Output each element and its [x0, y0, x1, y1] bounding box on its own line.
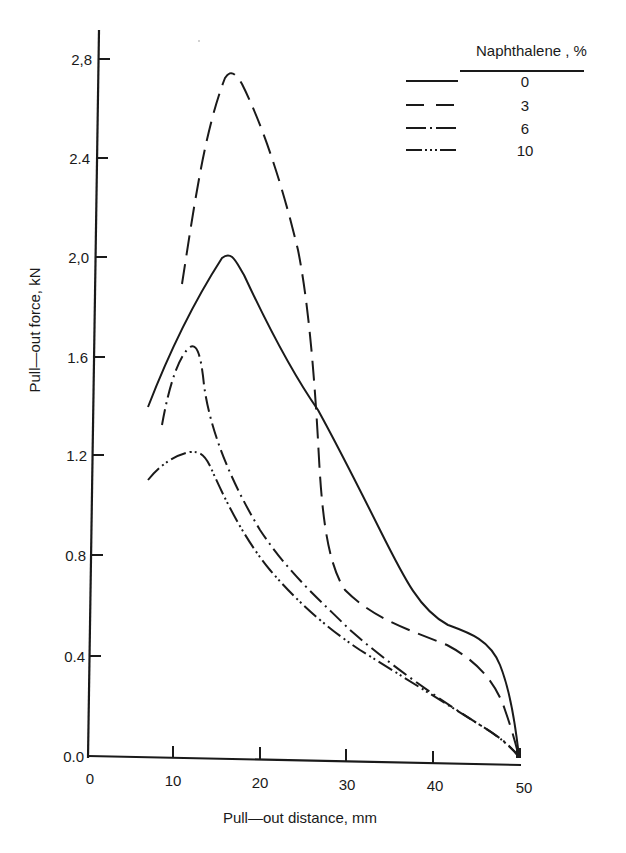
curve-6-percent — [162, 346, 519, 757]
legend-label: 0 — [521, 73, 529, 90]
x-axis-title: Pull—out distance, mm — [223, 809, 377, 826]
curve-3-percent — [182, 73, 519, 757]
legend: Naphthalene , % 0 3 6 10 — [406, 42, 587, 159]
legend-label: 3 — [521, 97, 529, 114]
legend-label: 6 — [521, 120, 529, 137]
x-tick-label: 20 — [252, 774, 269, 791]
y-tick-label: 0.0 — [63, 748, 84, 765]
y-tick-label: 0.8 — [65, 547, 86, 564]
x-tick-label: 0 — [86, 770, 94, 787]
y-tick-label: 2.4 — [69, 150, 90, 167]
y-tick-label: 2,8 — [71, 51, 92, 68]
y-axis-line — [88, 30, 99, 758]
x-tick-label: 40 — [427, 777, 444, 794]
curve-end-marker — [516, 748, 521, 758]
curve-0-percent — [148, 255, 519, 757]
series-curves — [148, 73, 521, 758]
y-tick-label: 1.2 — [66, 447, 87, 464]
axes — [88, 30, 521, 765]
scan-speck — [198, 40, 200, 42]
pull-out-force-chart: 2,8 2.4 2,0 1.6 1.2 0.8 0.4 0.0 0 10 20 … — [0, 0, 626, 853]
y-ticks: 2,8 2.4 2,0 1.6 1.2 0.8 0.4 0.0 — [63, 51, 110, 765]
x-tick-label: 50 — [516, 779, 533, 796]
y-tick-label: 2,0 — [68, 249, 89, 266]
legend-label: 10 — [517, 142, 534, 159]
x-ticks: 0 10 20 30 40 50 — [86, 746, 533, 796]
legend-title: Naphthalene , % — [476, 42, 587, 59]
x-tick-label: 10 — [165, 772, 182, 789]
x-tick-label: 30 — [339, 776, 356, 793]
y-tick-label: 1.6 — [67, 349, 88, 366]
curve-10-percent — [148, 452, 519, 757]
y-axis-title: Pull—out force, kN — [26, 267, 43, 392]
x-axis-line — [88, 756, 521, 765]
y-tick-label: 0.4 — [64, 648, 85, 665]
